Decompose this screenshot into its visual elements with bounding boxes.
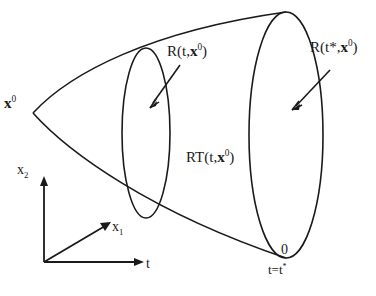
label-terminal-time: t=t* (268, 263, 287, 276)
axis-x1-arrowhead (100, 222, 111, 231)
label-reach-set-t-prefix: R(t, (167, 43, 190, 59)
leader-arrow-mid (150, 65, 180, 108)
axis-x1-line (44, 226, 105, 262)
label-axis-x1: x1 (112, 220, 123, 234)
label-initial-state-sup: 0 (12, 94, 17, 104)
label-axis-x1-base: x (112, 219, 119, 234)
label-reach-set-tstar-prefix: R(t*, (310, 39, 340, 55)
label-origin-zero: 0 (281, 243, 288, 257)
label-reach-tube-prefix: RT(t, (186, 149, 217, 165)
label-reach-set-tstar-base: x (340, 39, 348, 55)
label-reach-tube: RT(t,x0) (186, 150, 234, 165)
label-reach-tube-base: x (217, 149, 225, 165)
label-axis-x2: x2 (17, 163, 28, 177)
intermediate-cross-section-ellipse (122, 48, 170, 218)
label-reach-set-t-suffix: ) (202, 43, 207, 59)
axis-x2-arrowhead (40, 176, 48, 186)
leader-arrow-end (292, 70, 330, 110)
label-terminal-time-text: t=t (268, 262, 283, 277)
label-reach-tube-suffix: ) (229, 149, 234, 165)
label-axis-x2-base: x (17, 162, 24, 177)
label-initial-state-base: x (4, 95, 12, 111)
label-terminal-time-sup: * (283, 262, 287, 271)
axis-t-arrowhead (134, 258, 144, 266)
label-axis-t: t (146, 257, 150, 271)
label-axis-x1-sub: 1 (119, 227, 123, 237)
reachable-set-diagram: x0 R(t,x0) R(t*,x0) RT(t,x0) 0 t=t* x2 x… (0, 0, 376, 296)
lower-envelope-curve (33, 113, 286, 258)
label-axis-x2-sub: 2 (24, 170, 28, 180)
label-reach-set-t: R(t,x0) (167, 44, 207, 59)
label-reach-set-tstar-suffix: ) (353, 39, 358, 55)
label-reach-set-tstar: R(t*,x0) (310, 40, 358, 55)
label-initial-state: x0 (4, 96, 16, 111)
